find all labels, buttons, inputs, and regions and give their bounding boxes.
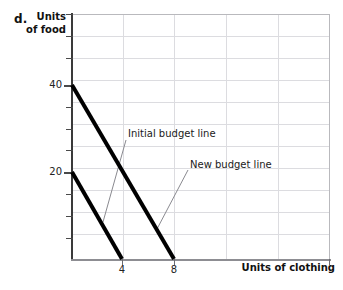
y-axis-tick-20: [64, 172, 73, 174]
gridline-horizontal: [73, 102, 329, 103]
gridline-horizontal: [73, 146, 329, 147]
y-axis-tick: [66, 14, 73, 15]
x-axis-title: Units of clothing: [242, 262, 335, 273]
y-axis-tick: [66, 58, 73, 59]
gridline-horizontal: [73, 234, 329, 235]
y-axis-tick: [66, 238, 73, 239]
y-axis-tick: [66, 216, 73, 217]
y-axis-tick-label-40: 40: [32, 79, 62, 90]
x-axis-tick-label-8: 8: [162, 264, 186, 275]
annotation-initial-budget-line: Initial budget line: [128, 128, 216, 139]
gridline-horizontal: [73, 124, 329, 125]
y-axis-title-line2: of food: [26, 24, 66, 35]
y-axis-tick: [66, 36, 73, 37]
gridline-horizontal: [73, 36, 329, 37]
y-axis-tick: [66, 194, 73, 195]
y-axis-tick-40: [64, 85, 73, 87]
y-axis-tick: [66, 150, 73, 151]
y-axis-tick: [66, 107, 73, 108]
gridline-horizontal: [73, 58, 329, 59]
x-axis-tick-label-4: 4: [110, 264, 134, 275]
y-axis-title: Units of food: [8, 10, 66, 36]
gridline-horizontal: [73, 212, 329, 213]
gridline-horizontal: [73, 80, 329, 81]
gridline-horizontal: [73, 190, 329, 191]
chart-figure: d. Units of food 40 20 4 8 Units of clot…: [0, 0, 343, 290]
gridline-vertical: [278, 15, 279, 259]
y-axis-tick-label-20: 20: [32, 166, 62, 177]
x-axis-line: [71, 259, 331, 261]
y-axis-tick: [66, 129, 73, 130]
y-axis-title-line1: Units: [37, 11, 66, 22]
gridline-vertical: [123, 15, 124, 259]
gridline-vertical: [226, 15, 227, 259]
annotation-new-budget-line: New budget line: [190, 159, 272, 170]
y-axis-line: [71, 13, 73, 261]
